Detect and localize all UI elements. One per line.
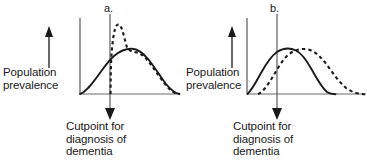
panel-a-letter: a. xyxy=(104,3,113,14)
panel-b-y-axis-label-line2: prevalence xyxy=(186,79,241,92)
panel-a-caption-line1: Cutpoint for xyxy=(66,120,126,133)
figure-container: a. Population prevalence Cutpoint for di… xyxy=(0,0,367,166)
panel-a-cutpoint-caption: Cutpoint for diagnosis of dementia xyxy=(66,120,126,158)
panel-b-y-axis-label-line1: Population xyxy=(186,66,241,79)
panel-b-cutpoint-caption: Cutpoint for diagnosis of dementia xyxy=(233,120,293,158)
panel-b-letter: b. xyxy=(270,3,279,14)
panel-b-caption-line3: dementia xyxy=(233,145,293,158)
panel-b-solid-curve xyxy=(248,49,336,95)
panel-a-y-axis-label: Population prevalence xyxy=(3,66,58,91)
panel-b-prevalence-arrow-icon xyxy=(228,26,236,68)
panel-b-cutpoint-arrow-icon xyxy=(272,14,282,120)
panel-a-y-axis-label-line1: Population xyxy=(3,66,58,79)
panel-a-y-axis-label-line2: prevalence xyxy=(3,79,58,92)
panel-a-caption-line2: diagnosis of xyxy=(66,133,126,146)
panel-a-caption-line3: dementia xyxy=(66,145,126,158)
panel-a-prevalence-arrow-icon xyxy=(45,26,53,68)
panel-a-dashed-curve xyxy=(111,24,179,94)
panel-b-dashed-curve xyxy=(258,49,365,94)
panel-b-y-axis-label: Population prevalence xyxy=(186,66,241,91)
panel-b-caption-line2: diagnosis of xyxy=(233,133,293,146)
panel-a-graphics xyxy=(45,14,180,120)
panel-b-caption-line1: Cutpoint for xyxy=(233,120,293,133)
panel-a-solid-curve xyxy=(80,49,180,94)
panel-b-graphics xyxy=(228,14,366,120)
